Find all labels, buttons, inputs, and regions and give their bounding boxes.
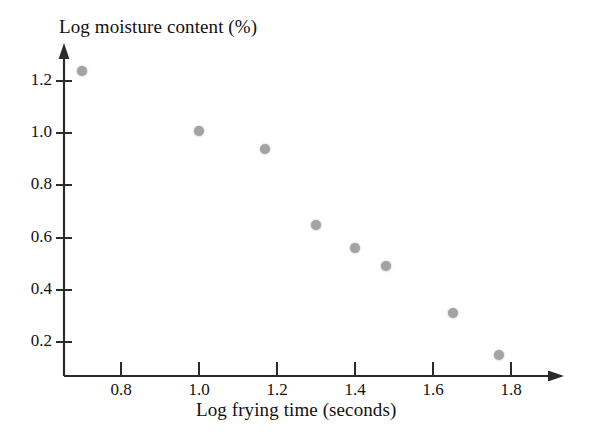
x-tick-label: 1.0 (178, 380, 220, 400)
x-tick-label: 1.8 (490, 380, 532, 400)
x-tick-label: 0.8 (100, 380, 142, 400)
data-point (77, 66, 87, 76)
x-tick-label: 1.2 (256, 380, 298, 400)
y-tick-label: 0.4 (10, 279, 52, 299)
y-axis-title: Log moisture content (%) (59, 16, 257, 38)
data-point (350, 243, 360, 253)
y-tick-label: 0.6 (10, 227, 52, 247)
y-tick-label: 0.8 (10, 174, 52, 194)
y-axis (59, 43, 70, 376)
x-axis-title: Log frying time (seconds) (196, 399, 396, 421)
data-point (194, 126, 204, 136)
scatter-plot-figure: Log moisture content (%) Log frying time… (0, 0, 604, 448)
y-tick-label: 1.0 (10, 122, 52, 142)
data-point (448, 308, 458, 318)
y-tick-label: 1.2 (10, 70, 52, 90)
y-tick-label: 0.2 (10, 331, 52, 351)
x-tick-label: 1.4 (334, 380, 376, 400)
x-tick-label: 1.6 (412, 380, 454, 400)
x-axis-ticks (121, 362, 511, 376)
data-point (311, 220, 321, 230)
